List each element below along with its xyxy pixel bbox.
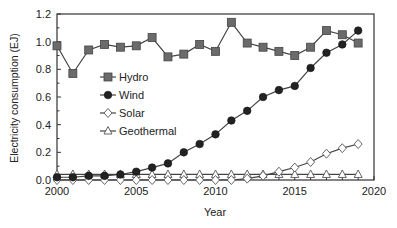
circle-marker-icon [196,140,204,148]
square-marker-icon [164,53,172,61]
x-tick-label: 2020 [362,185,386,197]
square-marker-icon [148,34,156,42]
circle-marker-icon [212,131,220,139]
y-tick-label: 0.4 [36,119,51,131]
axes: 0.00.20.40.60.81.01.22000200520102015202… [36,8,387,197]
circle-marker-icon [85,172,93,180]
triangle-marker-icon [338,170,346,178]
square-marker-icon [180,50,188,58]
circle-marker-icon [228,117,236,125]
square-marker-icon [53,42,61,50]
square-marker-icon [307,43,315,51]
square-marker-icon [101,40,109,48]
y-tick-label: 0.6 [36,91,51,103]
legend-item-hydro: Hydro [100,71,148,83]
diamond-marker-icon [338,144,346,153]
square-marker-icon [291,52,299,60]
diamond-marker-icon [354,140,362,149]
x-tick-label: 2005 [124,185,148,197]
legend-label: Solar [119,107,145,119]
diamond-marker-icon [259,171,267,180]
square-marker-icon [104,73,112,81]
line-chart: 0.00.20.40.60.81.01.22000200520102015202… [0,0,397,228]
square-marker-icon [259,43,267,51]
circle-marker-icon [259,93,267,101]
series-line [57,31,358,178]
legend-item-solar: Solar [100,107,145,119]
legend-label: Geothermal [119,125,176,137]
triangle-marker-icon [104,127,112,135]
square-marker-icon [354,39,362,47]
diamond-marker-icon [104,109,112,118]
x-tick-label: 2000 [45,185,69,197]
legend: HydroWindSolarGeothermal [100,71,176,137]
circle-marker-icon [104,91,112,99]
circle-marker-icon [291,82,299,90]
circle-marker-icon [354,27,362,35]
y-tick-label: 1.0 [36,36,51,48]
circle-marker-icon [307,64,315,72]
legend-label: Hydro [119,71,148,83]
square-marker-icon [322,27,330,35]
square-marker-icon [338,31,346,39]
circle-marker-icon [164,160,172,168]
circle-marker-icon [132,168,140,176]
triangle-marker-icon [307,170,315,178]
circle-marker-icon [148,164,156,172]
circle-marker-icon [339,41,347,49]
chart-container: 0.00.20.40.60.81.01.22000200520102015202… [0,0,397,228]
square-marker-icon [85,46,93,54]
circle-marker-icon [69,173,77,181]
y-tick-label: 1.2 [36,8,51,20]
square-marker-icon [196,40,204,48]
circle-marker-icon [323,49,331,57]
legend-label: Wind [119,89,144,101]
circle-marker-icon [117,171,125,179]
square-marker-icon [243,39,251,47]
legend-item-wind: Wind [100,89,144,101]
legend-item-geothermal: Geothermal [100,125,176,137]
series-layer [53,18,362,184]
series-wind [53,27,362,181]
square-marker-icon [132,42,140,50]
x-tick-label: 2015 [283,185,307,197]
circle-marker-icon [180,149,188,157]
diamond-marker-icon [291,163,299,172]
x-axis-label: Year [204,206,227,218]
y-axis-label: Electricity consumption (EJ) [8,33,20,163]
square-marker-icon [227,18,235,26]
circle-marker-icon [275,86,283,94]
diamond-marker-icon [307,158,315,167]
y-tick-label: 0.2 [36,146,51,158]
circle-marker-icon [101,172,109,180]
series-hydro [53,18,362,77]
diamond-marker-icon [322,149,330,158]
square-marker-icon [116,43,124,51]
series-solar [53,140,362,185]
circle-marker-icon [243,107,251,115]
x-tick-label: 2010 [203,185,227,197]
square-marker-icon [69,69,77,77]
triangle-marker-icon [354,170,362,178]
y-tick-label: 0.8 [36,63,51,75]
square-marker-icon [275,47,283,55]
triangle-marker-icon [322,170,330,178]
square-marker-icon [212,47,220,55]
circle-marker-icon [53,173,61,181]
